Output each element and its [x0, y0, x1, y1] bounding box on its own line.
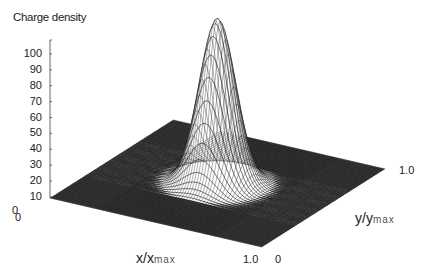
x-axis-label: x/xmax [136, 250, 176, 266]
x-origin-label: 0 [15, 211, 21, 223]
y-end-label: 1.0 [399, 164, 414, 176]
y-axis-label: y/ymax [355, 210, 395, 226]
x-end-label: 1.0 [243, 253, 258, 265]
z-axis-line [50, 40, 52, 198]
y-origin-label: 0 [275, 253, 281, 265]
surface-plot [0, 0, 431, 280]
